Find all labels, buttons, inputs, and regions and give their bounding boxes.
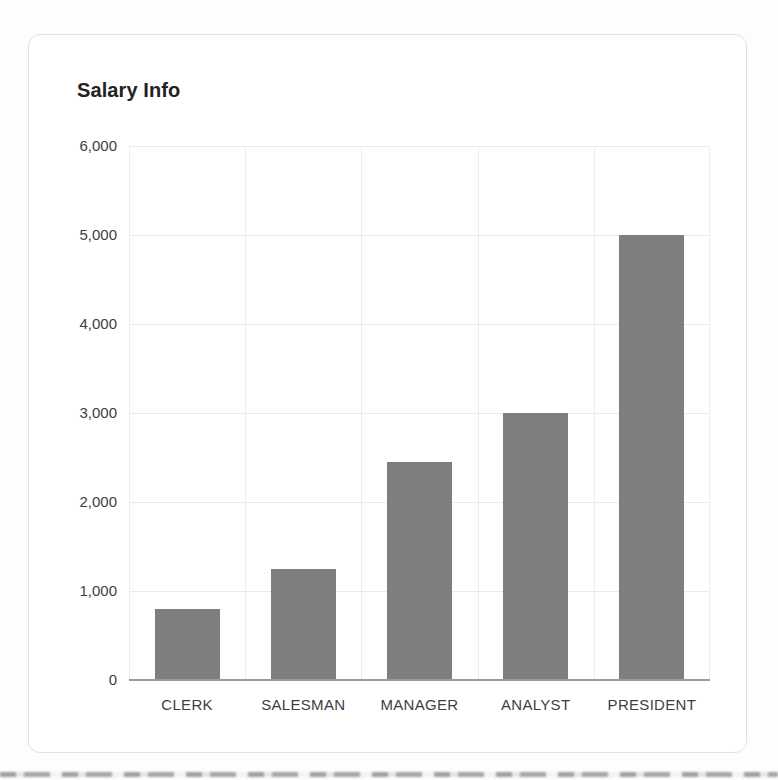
x-axis-label: PRESIDENT bbox=[592, 696, 712, 714]
x-axis-label: MANAGER bbox=[360, 696, 480, 714]
x-axis-labels: CLERKSALESMANMANAGERANALYSTPRESIDENT bbox=[0, 0, 778, 780]
x-axis-label: SALESMAN bbox=[243, 696, 363, 714]
x-axis-label: CLERK bbox=[127, 696, 247, 714]
x-axis-label: ANALYST bbox=[476, 696, 596, 714]
scan-smudge-artifact bbox=[0, 772, 778, 777]
